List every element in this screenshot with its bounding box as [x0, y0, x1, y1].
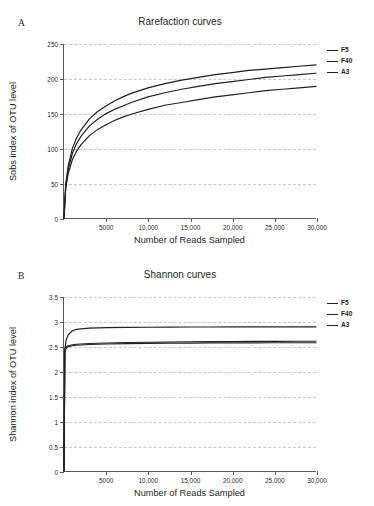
y-tick-label: 150 [47, 111, 58, 118]
x-tick-label: 10,000 [139, 224, 159, 231]
legend-item-f5[interactable]: F5 [327, 45, 352, 56]
x-tick-mark [106, 218, 107, 222]
x-tick-label: 5000 [99, 477, 113, 484]
y-tick-label: 250 [47, 41, 58, 48]
x-tick-mark [233, 471, 234, 475]
panel-a-x-axis-title: Number of Reads Sampled [63, 235, 316, 245]
x-tick-label: 5000 [99, 224, 113, 231]
legend-line-icon [327, 72, 338, 73]
legend-line-icon [327, 325, 338, 326]
y-tick-label: 2.5 [49, 344, 58, 351]
legend-label: A3 [341, 322, 349, 329]
x-tick-mark [191, 218, 192, 222]
panel-a-letter: A [18, 19, 25, 29]
panel-b-legend: F5F40A3 [327, 298, 352, 331]
x-tick-label: 30,000 [307, 224, 327, 231]
curve-a3 [64, 86, 316, 218]
legend-item-a3[interactable]: A3 [327, 67, 352, 78]
panel-b-title: Shannon curves [60, 269, 300, 280]
y-tick-label: 0 [54, 469, 58, 476]
y-tick-label: 100 [47, 146, 58, 153]
x-tick-mark [148, 471, 149, 475]
panel-b-plot-area: 00.511.522.533.5500010,00015,00020,00025… [63, 297, 316, 472]
x-tick-mark [275, 471, 276, 475]
legend-label: F5 [341, 47, 349, 54]
legend-line-icon [327, 303, 338, 304]
y-tick-label: 0 [54, 216, 58, 223]
y-tick-label: 3 [54, 319, 58, 326]
curve-f5 [64, 327, 316, 471]
legend-label: F40 [341, 58, 352, 65]
y-tick-label: 50 [51, 181, 58, 188]
panel-b-y-axis-title: Shannon index of OTU level [6, 297, 20, 472]
panel-b: B Shannon curves Shannon index of OTU le… [0, 253, 374, 506]
curve-a3 [64, 343, 316, 471]
y-tick-mark [60, 219, 64, 220]
panel-a-y-axis-title: Sobs index of OTU level [6, 44, 20, 219]
legend-item-f40[interactable]: F40 [327, 309, 352, 320]
x-tick-label: 20,000 [223, 224, 243, 231]
legend-line-icon [327, 50, 338, 51]
curve-f40 [64, 73, 316, 218]
x-tick-mark [233, 218, 234, 222]
x-tick-label: 10,000 [139, 477, 159, 484]
curve-f40 [64, 341, 316, 471]
panel-a: A Rarefaction curves Sobs index of OTU l… [0, 0, 374, 253]
x-tick-mark [106, 471, 107, 475]
x-tick-mark [317, 218, 318, 222]
x-tick-label: 15,000 [181, 224, 201, 231]
legend-label: F5 [341, 300, 349, 307]
y-tick-mark [60, 472, 64, 473]
panel-b-x-axis-title: Number of Reads Sampled [63, 488, 316, 498]
legend-item-f40[interactable]: F40 [327, 56, 352, 67]
y-tick-label: 3.5 [49, 294, 58, 301]
panel-a-curves [64, 44, 316, 218]
y-tick-label: 2 [54, 369, 58, 376]
panel-a-plot-area: 050100150200250500010,00015,00020,00025,… [63, 44, 316, 219]
x-tick-mark [317, 471, 318, 475]
x-tick-label: 25,000 [265, 477, 285, 484]
x-tick-mark [191, 471, 192, 475]
x-tick-label: 20,000 [223, 477, 243, 484]
legend-line-icon [327, 314, 338, 315]
panel-a-title: Rarefaction curves [60, 16, 300, 27]
panel-b-letter: B [18, 272, 24, 282]
legend-line-icon [327, 61, 338, 62]
legend-item-a3[interactable]: A3 [327, 320, 352, 331]
x-tick-mark [148, 218, 149, 222]
figure-rarefaction-shannon: A Rarefaction curves Sobs index of OTU l… [0, 0, 374, 506]
y-tick-label: 1 [54, 419, 58, 426]
x-tick-label: 25,000 [265, 224, 285, 231]
panel-a-legend: F5F40A3 [327, 45, 352, 78]
legend-label: A3 [341, 69, 349, 76]
legend-item-f5[interactable]: F5 [327, 298, 352, 309]
x-tick-label: 30,000 [307, 477, 327, 484]
y-tick-label: 200 [47, 76, 58, 83]
y-tick-label: 0.5 [49, 444, 58, 451]
x-tick-mark [275, 218, 276, 222]
x-tick-label: 15,000 [181, 477, 201, 484]
legend-label: F40 [341, 311, 352, 318]
panel-b-curves [64, 297, 316, 471]
y-tick-label: 1.5 [49, 394, 58, 401]
